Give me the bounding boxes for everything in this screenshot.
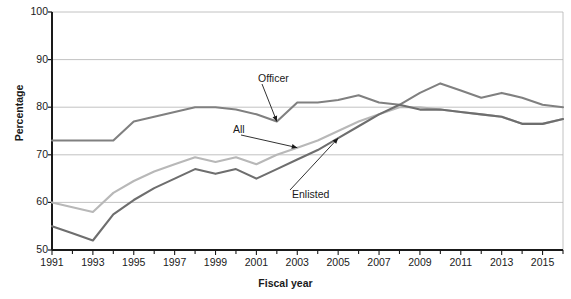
series-line-officer: [52, 83, 563, 140]
x-tick-label-1997: 1997: [155, 256, 195, 268]
x-tick-label-1993: 1993: [73, 256, 113, 268]
x-tick-label-2015: 2015: [523, 256, 563, 268]
x-axis-title: Fiscal year: [0, 277, 571, 289]
annotation-label-all: All: [233, 123, 245, 135]
x-tick-label-1999: 1999: [196, 256, 236, 268]
x-tick-label-2013: 2013: [482, 256, 522, 268]
plot-area: [0, 0, 571, 299]
x-tick-label-2007: 2007: [359, 256, 399, 268]
annotation-label-officer: Officer: [258, 72, 289, 84]
annotation-label-enlisted: Enlisted: [292, 188, 329, 200]
x-tick-label-2003: 2003: [277, 256, 317, 268]
annotation-leader-all: [241, 135, 297, 148]
annotation-leader-enlisted: [290, 138, 338, 190]
x-tick-label-1991: 1991: [32, 256, 72, 268]
x-tick-label-2001: 2001: [236, 256, 276, 268]
x-tick-label-2011: 2011: [441, 256, 481, 268]
chart-container: Percentage 5060708090100 199119931995199…: [0, 0, 571, 299]
x-tick-label-2009: 2009: [400, 256, 440, 268]
annotation-leader-officer: [262, 84, 277, 121]
x-tick-label-1995: 1995: [114, 256, 154, 268]
x-tick-label-2005: 2005: [318, 256, 358, 268]
